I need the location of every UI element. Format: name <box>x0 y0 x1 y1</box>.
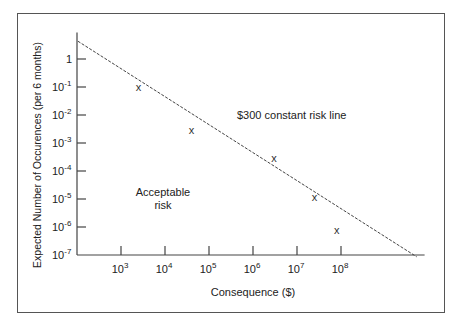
y-tick-label: 10-6 <box>52 219 72 233</box>
data-point-marker: x <box>189 124 195 136</box>
y-tick-label: 10-2 <box>52 107 72 121</box>
risk-chart: 110-110-210-310-410-510-610-7 1031041051… <box>0 0 461 328</box>
x-tick-label: 105 <box>200 261 217 275</box>
x-tick-label-base: 10 <box>244 263 256 275</box>
x-tick-label-base: 10 <box>156 263 168 275</box>
y-tick-label-base: 10 <box>52 165 64 177</box>
acceptable-risk-label-line2: risk <box>154 199 172 211</box>
y-tick-label-base: 10 <box>52 249 64 261</box>
data-point-marker: x <box>312 191 318 203</box>
x-tick-label-exponent: 3 <box>124 261 129 270</box>
x-tick-label-exponent: 6 <box>256 261 261 270</box>
acceptable-risk-label-line1: Acceptable <box>136 186 190 198</box>
x-tick-label: 107 <box>288 261 305 275</box>
y-tick-label: 10-1 <box>52 79 72 93</box>
x-tick-label: 104 <box>156 261 173 275</box>
y-tick-label-base: 10 <box>52 109 64 121</box>
data-point-marker: x <box>271 152 277 164</box>
y-tick-label-exponent: -2 <box>64 107 72 116</box>
y-tick-label: 10-3 <box>52 135 72 149</box>
x-tick-label-base: 10 <box>332 263 344 275</box>
x-tick-label: 103 <box>112 261 129 275</box>
y-tick-label: 10-7 <box>52 247 72 261</box>
y-tick-label-base: 10 <box>52 221 64 233</box>
x-tick-label: 106 <box>244 261 261 275</box>
data-point-marker: x <box>334 224 340 236</box>
y-axis-title: Expected Number of Occurences (per 6 mon… <box>31 42 43 268</box>
data-point-marker: x <box>136 81 142 93</box>
y-tick-label: 1 <box>66 53 72 65</box>
y-tick-label-exponent: -1 <box>64 79 72 88</box>
x-tick-label-exponent: 7 <box>300 261 305 270</box>
y-tick-label-exponent: -4 <box>64 163 72 172</box>
x-tick-label-base: 10 <box>112 263 124 275</box>
y-tick-label-exponent: -5 <box>64 191 72 200</box>
y-tick-label: 10-4 <box>52 163 72 177</box>
y-tick-label: 10-5 <box>52 191 72 205</box>
y-tick-label-base: 10 <box>52 193 64 205</box>
axes <box>77 32 425 255</box>
constant-risk-line <box>78 41 417 257</box>
x-tick-label-exponent: 8 <box>344 261 349 270</box>
x-tick-label-exponent: 5 <box>212 261 217 270</box>
x-tick-label-base: 10 <box>200 263 212 275</box>
constant-risk-line-label: $300 constant risk line <box>237 109 346 121</box>
y-ticks: 110-110-210-310-410-510-610-7 <box>52 53 86 261</box>
x-tick-label-exponent: 4 <box>168 261 173 270</box>
x-ticks: 103104105106107108 <box>112 246 349 275</box>
y-tick-label-exponent: -7 <box>64 247 72 256</box>
y-tick-label-base: 10 <box>52 81 64 93</box>
y-tick-label-base: 10 <box>52 137 64 149</box>
x-axis-title: Consequence ($) <box>211 286 295 298</box>
y-tick-label-base: 1 <box>66 53 72 65</box>
data-points: xxxxx <box>136 81 340 236</box>
y-tick-label-exponent: -3 <box>64 135 72 144</box>
x-tick-label-base: 10 <box>288 263 300 275</box>
x-tick-label: 108 <box>332 261 349 275</box>
y-tick-label-exponent: -6 <box>64 219 72 228</box>
